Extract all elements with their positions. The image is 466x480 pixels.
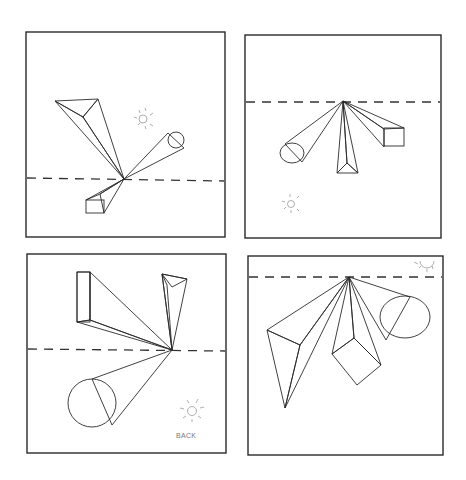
panel-frame: [248, 256, 443, 455]
panel-bottom-left: BACK: [27, 254, 226, 453]
panel-frame: [245, 35, 441, 238]
panel-top-right: [245, 35, 441, 238]
panel-bottom-right: [248, 256, 443, 455]
panel-frame: [26, 32, 225, 237]
perspective-drawing: BACK: [0, 0, 466, 480]
panel-top-left: [26, 32, 225, 237]
back-label: BACK: [176, 432, 196, 439]
panel-frame: [27, 254, 226, 453]
